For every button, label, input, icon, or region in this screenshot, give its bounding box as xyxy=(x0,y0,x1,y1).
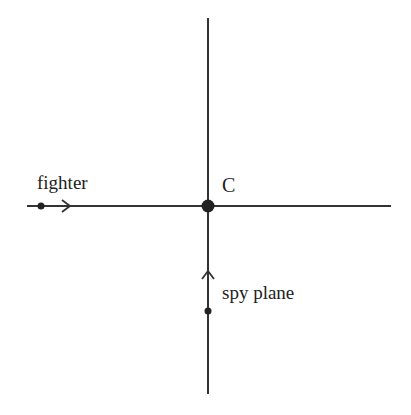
spy-plane-label: spy plane xyxy=(222,282,294,304)
fighter-label: fighter xyxy=(37,172,88,194)
point-c-label: C xyxy=(222,174,235,197)
diagram-canvas: fighter C spy plane xyxy=(0,0,411,415)
diagram-svg xyxy=(0,0,411,415)
fighter-dot xyxy=(38,203,45,210)
intersection-point-c xyxy=(202,200,215,213)
spy-plane-dot xyxy=(205,308,212,315)
